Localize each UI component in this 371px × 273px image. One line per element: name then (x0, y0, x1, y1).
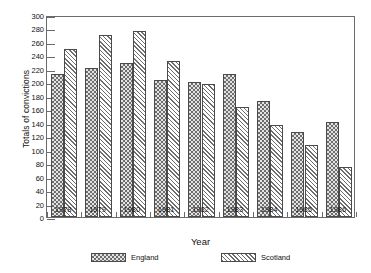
y-axis-tick-label: 260 (31, 39, 44, 48)
legend-item-scotland[interactable]: Scotland (221, 251, 290, 263)
y-axis-tick-label: 80 (36, 160, 44, 169)
y-axis-tick-label: 160 (31, 106, 44, 115)
bar-scotland-1982 (202, 84, 215, 217)
x-axis-tick-label: 1978 (46, 205, 80, 214)
bar-chart-figure: Totals of convictions 020406080100120140… (0, 0, 371, 273)
y-axis-tick-label: 0 (40, 214, 44, 223)
bar-england-1986 (326, 122, 339, 217)
legend-swatch-england (91, 253, 126, 262)
x-axis-tick-label: 1979 (80, 205, 114, 214)
bar-scotland-1984 (270, 125, 283, 217)
x-axis-tick-label: 1982 (183, 205, 217, 214)
y-axis-tick-label: 280 (31, 25, 44, 34)
bar-england-1980 (120, 63, 133, 217)
y-axis-title: Totals of convictions (21, 29, 31, 189)
bar-england-1983 (223, 74, 236, 217)
x-axis-tick-label: 1981 (149, 205, 183, 214)
legend-label: England (131, 253, 159, 262)
y-axis-tick-label: 240 (31, 52, 44, 61)
x-axis-title: Year (46, 236, 355, 247)
x-axis-tick-label: 1986 (321, 205, 355, 214)
x-axis-tick-label: 1984 (252, 205, 286, 214)
bar-england-1982 (188, 82, 201, 217)
y-axis-tick-label: 300 (31, 12, 44, 21)
y-axis-tick-mark (47, 57, 55, 58)
bar-scotland-1978 (64, 49, 77, 217)
y-axis-tick-mark (47, 219, 55, 220)
y-axis-tick-label: 200 (31, 79, 44, 88)
x-axis-tick-label: 1983 (218, 205, 252, 214)
x-axis-tick-label: 1980 (115, 205, 149, 214)
y-axis-tick-label: 180 (31, 93, 44, 102)
bar-england-1981 (154, 80, 167, 217)
legend-swatch-scotland (221, 253, 256, 262)
y-axis-tick-label: 40 (36, 187, 44, 196)
y-axis-tick-label: 100 (31, 147, 44, 156)
y-axis-tick-mark (47, 30, 55, 31)
bar-scotland-1983 (236, 107, 249, 217)
plot-area: 0204060801001201401601802002202402602803… (46, 16, 355, 218)
y-axis-tick-mark (47, 17, 55, 18)
bar-scotland-1980 (133, 31, 146, 217)
y-axis-tick-label: 220 (31, 66, 44, 75)
y-axis-tick-mark (47, 44, 55, 45)
bar-england-1978 (51, 74, 64, 217)
bar-england-1984 (257, 101, 270, 217)
legend-label: Scotland (261, 253, 290, 262)
y-axis-tick-label: 60 (36, 174, 44, 183)
legend-item-england[interactable]: England (91, 251, 159, 263)
x-axis-tick-label: 1985 (286, 205, 320, 214)
chart-legend: EnglandScotland (46, 251, 355, 265)
bar-scotland-1981 (167, 61, 180, 217)
y-axis-tick-label: 120 (31, 133, 44, 142)
y-axis-tick-label: 140 (31, 120, 44, 129)
x-axis-tick-mark (356, 212, 357, 217)
bar-england-1979 (85, 68, 98, 217)
y-axis-tick-label: 20 (36, 201, 44, 210)
y-axis-tick-mark (47, 71, 55, 72)
bar-scotland-1979 (99, 35, 112, 217)
